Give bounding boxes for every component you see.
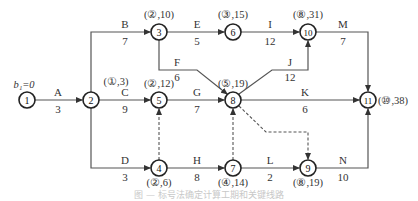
node-annotations: b₁=0 (①,3) (②,10) (②,6) (②,12) (③,15) (④… [13,9,408,189]
node-number: 4 [157,163,162,174]
node-number: 8 [231,95,236,106]
activity-duration-N: 10 [338,171,350,183]
node-2-label: (①,3) [104,76,129,88]
node-7: 7 [225,160,241,176]
node-number: 10 [304,28,314,38]
activity-name-C: C [121,86,128,98]
start-label: b₁=0 [13,79,35,90]
node-8-label: (⑤,19) [218,78,249,90]
dummy-8-9 [239,106,308,159]
network-diagram: A 3 B 7 C 9 D 3 E 5 F 6 G 7 H 8 I 12 J 1… [0,0,418,201]
node-5: 5 [151,92,167,108]
dummy-arrows [159,106,308,160]
activity-name-N: N [339,154,347,166]
arrow-J [239,41,308,94]
node-4: 4 [151,160,167,176]
activity-duration-C: 9 [122,103,128,115]
node-3: 3 [151,24,167,40]
activity-duration-M: 7 [340,35,346,47]
activity-duration-D: 3 [122,171,128,183]
node-9: 9 [300,160,316,176]
activity-duration-E: 5 [194,35,200,47]
node-10: 10 [300,24,316,40]
node-6-label: (③,15) [218,9,249,21]
activity-duration-I: 12 [265,35,276,47]
node-number: 11 [364,96,373,106]
node-7-label: (④,14) [218,177,249,189]
activity-name-B: B [121,18,128,30]
figure-caption: 图 — 标号法确定计算工期和关键线路 [134,189,284,200]
activity-name-A: A [54,86,62,98]
node-10-label: (⑧,31) [293,9,324,21]
activity-name-M: M [338,18,348,30]
node-1: 1 [19,92,35,108]
activity-duration-B: 7 [122,35,128,47]
node-number: 7 [231,163,236,174]
activity-name-D: D [121,154,129,166]
node-number: 6 [231,27,236,38]
activity-name-I: I [268,18,272,30]
activity-name-J: J [288,56,293,68]
node-8: 8 [225,92,241,108]
activity-duration-L: 2 [267,171,273,183]
node-3-label: (②,10) [144,9,175,21]
node-number: 3 [157,27,162,38]
node-4-label: (②,6) [147,177,172,189]
node-11: 11 [360,92,376,108]
activity-name-E: E [194,18,201,30]
node-9-label: (⑧,19) [293,177,324,189]
node-number: 5 [157,95,162,106]
activity-duration-A: 3 [55,103,61,115]
node-number: 2 [89,95,94,106]
activity-duration-G: 7 [194,103,200,115]
activity-duration-K: 6 [302,103,308,115]
node-number: 1 [25,95,30,106]
activity-duration-H: 8 [194,171,200,183]
activity-name-L: L [267,154,274,166]
node-6: 6 [225,24,241,40]
activity-name-G: G [193,86,201,98]
activity-name-K: K [301,86,309,98]
node-2: 2 [83,92,99,108]
node-5-label: (②,12) [144,78,175,90]
node-11-label: (⑩,38) [378,95,409,107]
activity-duration-F: 6 [174,71,180,83]
activity-name-F: F [174,56,180,68]
activity-duration-J: 12 [285,71,296,83]
activity-name-H: H [193,154,201,166]
node-number: 9 [306,163,311,174]
